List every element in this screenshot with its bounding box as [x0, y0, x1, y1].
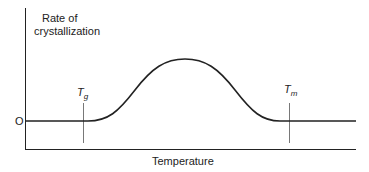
zero-label: O	[15, 115, 24, 127]
x-axis-label: Temperature	[152, 155, 214, 167]
tg-symbol: T	[77, 86, 84, 98]
y-axis-label-line1: Rate of	[42, 12, 77, 24]
rate-curve	[26, 59, 356, 121]
tg-label: Tg	[77, 86, 88, 103]
y-axis-label-line2: crystallization	[34, 25, 100, 37]
tm-label: Tm	[284, 83, 297, 100]
tg-subscript: g	[84, 92, 88, 101]
tm-symbol: T	[284, 83, 291, 95]
tm-subscript: m	[291, 89, 298, 98]
